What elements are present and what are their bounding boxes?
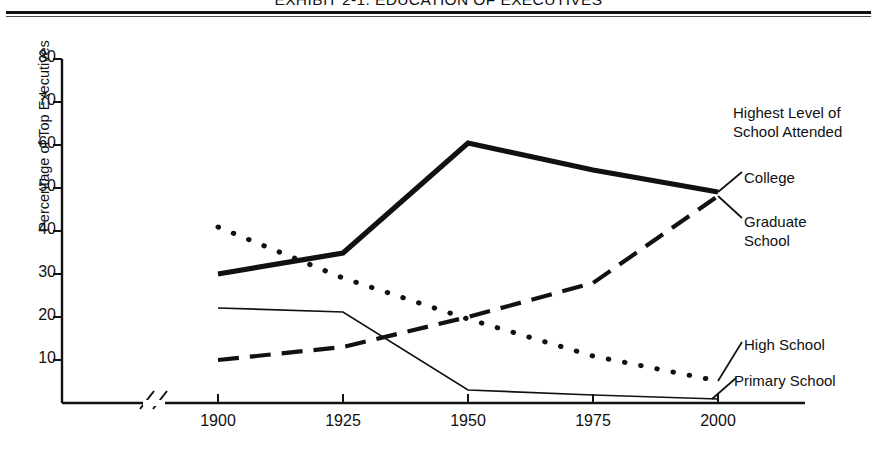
x-tick-marks	[218, 394, 718, 403]
series-line-college	[218, 143, 718, 274]
series-line-high-school	[218, 227, 718, 381]
leader-lines	[712, 172, 742, 399]
axis-break-mask	[143, 400, 165, 406]
y-tick-marks	[53, 59, 62, 360]
series-line-graduate-school	[218, 196, 718, 360]
axis-lines	[62, 59, 805, 403]
chart-svg	[0, 0, 877, 456]
chart-canvas	[0, 0, 877, 456]
chart-page: EXHIBIT 2-1. EDUCATION OF EXECUTIVES Per…	[0, 0, 877, 456]
